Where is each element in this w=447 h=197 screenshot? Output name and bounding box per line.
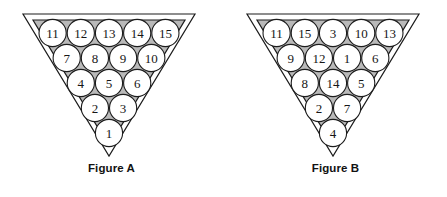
figure-a-rack-diagram: 111213141578910456231 [0, 0, 223, 170]
ball-group-a: 111213141578910456231 [39, 19, 179, 146]
ball-number-label: 4 [330, 126, 337, 141]
ball-number-label: 11 [270, 26, 283, 41]
ball-number-label: 3 [330, 26, 337, 41]
ball: 8 [291, 69, 318, 96]
ball: 7 [53, 44, 80, 71]
ball-number-label: 6 [372, 51, 379, 66]
ball-number-label: 15 [298, 26, 311, 41]
ball: 1 [95, 119, 122, 146]
ball: 13 [376, 19, 403, 46]
ball: 6 [124, 69, 151, 96]
ball-number-label: 5 [106, 76, 113, 91]
ball-number-label: 14 [131, 26, 145, 41]
ball-number-label: 4 [78, 76, 85, 91]
ball: 9 [110, 44, 137, 71]
ball: 2 [305, 94, 332, 121]
ball: 5 [95, 69, 122, 96]
ball-number-label: 2 [92, 101, 99, 116]
ball-number-label: 9 [120, 51, 127, 66]
ball: 1 [334, 44, 361, 71]
ball-number-label: 7 [344, 101, 351, 116]
ball-group-b: 111531013912168145274 [263, 19, 403, 146]
ball: 7 [334, 94, 361, 121]
figure-a-caption: Figure A [0, 162, 223, 174]
ball: 14 [124, 19, 151, 46]
ball: 15 [291, 19, 318, 46]
ball-number-label: 7 [63, 51, 70, 66]
ball: 4 [67, 69, 94, 96]
ball: 2 [81, 94, 108, 121]
ball-number-label: 3 [120, 101, 127, 116]
ball-number-label: 13 [103, 26, 116, 41]
ball-number-label: 10 [145, 51, 158, 66]
ball: 11 [39, 19, 66, 46]
ball: 12 [305, 44, 332, 71]
ball: 6 [362, 44, 389, 71]
figure-a-container: 111213141578910456231 Figure A [0, 0, 223, 197]
ball-number-label: 1 [106, 126, 113, 141]
ball-number-label: 12 [74, 26, 87, 41]
ball: 11 [263, 19, 290, 46]
ball-number-label: 6 [134, 76, 141, 91]
ball: 13 [95, 19, 122, 46]
ball-number-label: 2 [316, 101, 323, 116]
ball-number-label: 13 [383, 26, 396, 41]
ball-number-label: 14 [327, 76, 341, 91]
ball: 5 [348, 69, 375, 96]
ball: 8 [81, 44, 108, 71]
ball-number-label: 8 [92, 51, 99, 66]
ball-number-label: 9 [287, 51, 294, 66]
ball: 4 [319, 119, 346, 146]
ball-number-label: 12 [312, 51, 325, 66]
ball: 14 [319, 69, 346, 96]
figure-b-rack-diagram: 111531013912168145274 [224, 0, 447, 170]
figure-comparison-canvas: 111213141578910456231 Figure A 111531013… [0, 0, 447, 197]
ball: 3 [319, 19, 346, 46]
ball-number-label: 8 [302, 76, 309, 91]
ball-number-label: 10 [355, 26, 368, 41]
figure-b-caption: Figure B [224, 162, 447, 174]
ball: 10 [348, 19, 375, 46]
ball: 15 [152, 19, 179, 46]
figure-b-container: 111531013912168145274 Figure B [224, 0, 447, 197]
ball-number-label: 15 [159, 26, 172, 41]
ball-number-label: 5 [358, 76, 365, 91]
ball: 10 [138, 44, 165, 71]
ball-number-label: 1 [344, 51, 351, 66]
ball-number-label: 11 [46, 26, 59, 41]
ball: 9 [277, 44, 304, 71]
ball: 3 [110, 94, 137, 121]
ball: 12 [67, 19, 94, 46]
